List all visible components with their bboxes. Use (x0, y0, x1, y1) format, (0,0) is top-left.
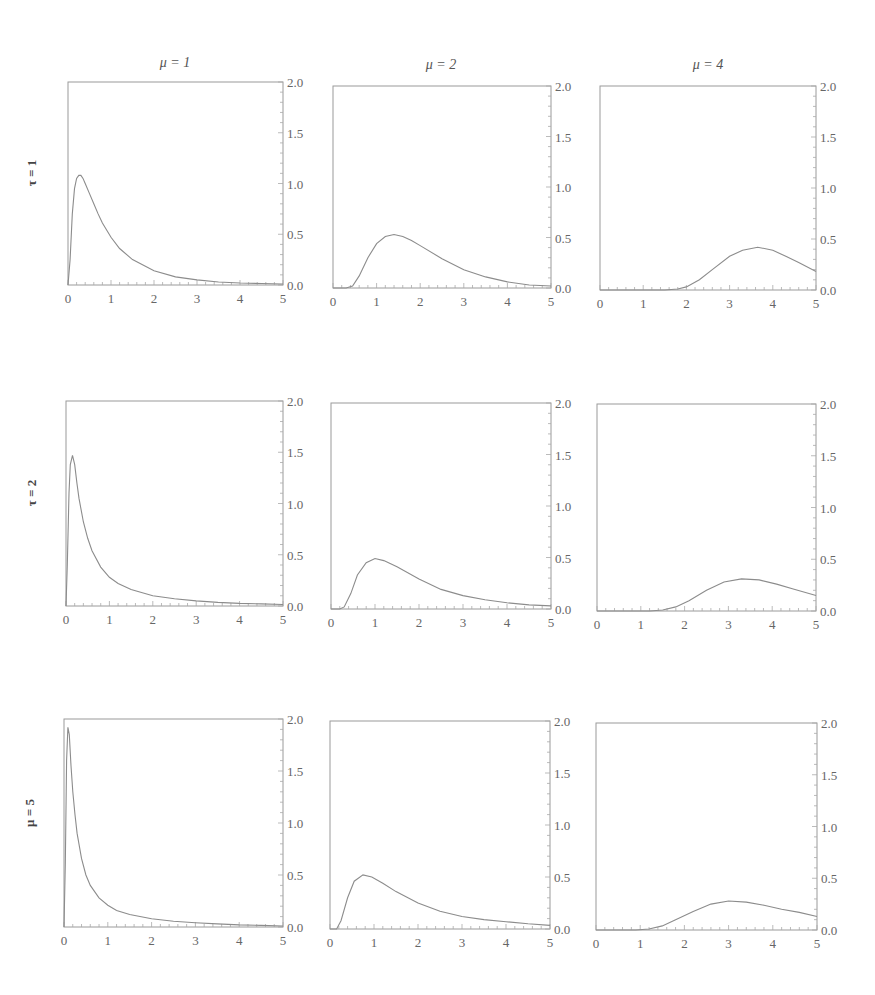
plot-frame (66, 401, 283, 606)
x-tick-label: 0 (63, 612, 70, 627)
panel-r3-c1: 0123450.00.51.01.52.0 (64, 719, 283, 927)
y-tick-label: 2.0 (287, 394, 303, 409)
y-tick-label: 0.0 (555, 281, 571, 296)
y-tick-label: 0.0 (287, 920, 303, 935)
x-tick-label: 1 (108, 291, 115, 306)
y-tick-label: 0.5 (287, 548, 303, 563)
row-title-tau-1: τ = 1 (24, 133, 40, 213)
x-tick-label: 0 (327, 935, 334, 950)
y-tick-label: 1.5 (555, 130, 571, 145)
y-tick-label: 0.5 (555, 551, 571, 566)
plot-frame (64, 719, 283, 927)
y-tick-label: 1.5 (821, 768, 837, 783)
y-tick-label: 1.0 (821, 820, 837, 835)
x-tick-label: 4 (236, 933, 243, 948)
panel-r1-c1: 0123450.00.51.01.52.0 (68, 82, 283, 285)
y-tick-label: 2.0 (555, 79, 571, 94)
x-tick-label: 4 (769, 617, 776, 632)
y-tick-label: 1.5 (554, 766, 570, 781)
x-tick-label: 2 (150, 612, 157, 627)
x-tick-label: 4 (503, 935, 510, 950)
panel-r2-c2: 0123450.00.51.01.52.0 (331, 403, 551, 609)
panel-r2-c1: 0123450.00.51.01.52.0 (66, 401, 283, 606)
x-tick-label: 3 (192, 933, 199, 948)
x-tick-label: 5 (814, 936, 821, 951)
x-tick-label: 5 (548, 294, 555, 309)
x-tick-label: 0 (61, 933, 68, 948)
x-tick-label: 3 (726, 296, 733, 311)
x-tick-label: 0 (330, 294, 337, 309)
x-tick-label: 4 (236, 612, 243, 627)
x-tick-label: 1 (637, 936, 644, 951)
x-tick-label: 1 (106, 612, 113, 627)
density-curve (596, 901, 817, 930)
y-tick-label: 0.5 (821, 871, 837, 886)
x-tick-label: 3 (460, 615, 467, 630)
x-tick-label: 1 (372, 615, 379, 630)
column-title-mu-1: μ = 1 (115, 55, 235, 71)
x-tick-label: 3 (459, 935, 466, 950)
y-tick-label: 0.5 (287, 868, 303, 883)
density-curve (66, 455, 283, 606)
x-tick-label: 5 (548, 615, 555, 630)
y-tick-label: 0.5 (820, 552, 836, 567)
x-tick-label: 2 (681, 936, 688, 951)
x-tick-label: 1 (371, 935, 378, 950)
y-tick-label: 1.0 (287, 816, 303, 831)
y-tick-label: 1.5 (820, 130, 836, 145)
y-tick-label: 1.5 (287, 445, 303, 460)
x-tick-label: 0 (597, 296, 604, 311)
y-tick-label: 0.5 (554, 870, 570, 885)
y-tick-label: 1.0 (555, 499, 571, 514)
y-tick-label: 2.0 (554, 714, 570, 729)
plot-frame (330, 721, 550, 929)
x-tick-label: 4 (504, 294, 511, 309)
x-tick-label: 3 (193, 612, 200, 627)
y-tick-label: 1.0 (820, 181, 836, 196)
x-tick-label: 2 (681, 617, 688, 632)
column-title-mu-2: μ = 2 (381, 57, 501, 73)
x-tick-label: 5 (547, 935, 554, 950)
x-tick-label: 3 (725, 617, 732, 632)
density-curve (68, 175, 283, 285)
y-tick-label: 2.0 (555, 396, 571, 411)
y-tick-label: 1.0 (287, 177, 303, 192)
row-title-mu-5: μ = 5 (22, 773, 38, 853)
y-tick-label: 1.5 (287, 126, 303, 141)
y-tick-label: 2.0 (287, 712, 303, 727)
plot-frame (600, 86, 816, 290)
x-tick-label: 5 (813, 296, 820, 311)
x-tick-label: 4 (770, 296, 777, 311)
plot-frame (333, 86, 551, 288)
x-tick-label: 2 (415, 935, 422, 950)
y-tick-label: 0.5 (820, 232, 836, 247)
row-title-tau-2: τ = 2 (24, 453, 40, 533)
x-tick-label: 5 (280, 612, 287, 627)
x-tick-label: 2 (416, 615, 423, 630)
y-tick-label: 0.0 (287, 278, 303, 293)
y-tick-label: 0.0 (820, 283, 836, 298)
x-tick-label: 5 (280, 291, 287, 306)
x-tick-label: 2 (683, 296, 690, 311)
column-title-mu-4: μ = 4 (648, 57, 768, 73)
y-tick-label: 0.0 (555, 602, 571, 617)
x-tick-label: 0 (328, 615, 335, 630)
y-tick-label: 2.0 (821, 716, 837, 731)
x-tick-label: 2 (151, 291, 158, 306)
x-tick-label: 3 (194, 291, 201, 306)
x-tick-label: 5 (280, 933, 287, 948)
x-tick-label: 2 (148, 933, 155, 948)
panel-r2-c3: 0123450.00.51.01.52.0 (597, 404, 816, 611)
panel-r1-c3: 0123450.00.51.01.52.0 (600, 86, 816, 290)
x-tick-label: 3 (461, 294, 468, 309)
y-tick-label: 2.0 (820, 79, 836, 94)
plot-frame (596, 723, 817, 930)
y-tick-label: 1.0 (554, 818, 570, 833)
panel-r1-c2: 0123450.00.51.01.52.0 (333, 86, 551, 288)
plot-frame (68, 82, 283, 285)
panel-r3-c3: 0123450.00.51.01.52.0 (596, 723, 817, 930)
y-tick-label: 1.5 (555, 448, 571, 463)
y-tick-label: 1.5 (287, 764, 303, 779)
x-tick-label: 1 (105, 933, 112, 948)
density-curve (64, 727, 283, 927)
